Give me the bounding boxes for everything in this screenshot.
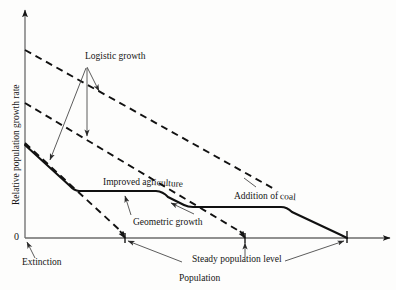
coal-leaders — [244, 178, 256, 187]
improved-agriculture-label: Improved agriculture — [103, 178, 183, 188]
x-axis-label: Population — [179, 274, 220, 284]
logistic-decline-2 — [25, 103, 244, 234]
steady-population-level-label: Steady population level — [192, 255, 282, 265]
addition-of-coal-text-a: Addition of — [234, 191, 280, 201]
logistic-growth-label: Logistic growth — [85, 52, 145, 62]
geometric-growth-label: Geometric growth — [133, 218, 202, 228]
logistic-leaders — [50, 67, 99, 160]
extinction-label: Extinction — [22, 258, 62, 268]
coal-leader — [244, 178, 256, 187]
y-axis-label: Relative population growth rate — [11, 84, 21, 205]
improved-agriculture-text-b: iculture — [154, 178, 184, 190]
dashed-arrow-tips — [120, 231, 245, 238]
figure-canvas — [0, 0, 396, 290]
improved-agriculture-text-a: Improved agr — [103, 177, 154, 187]
logistic-decline-1 — [25, 50, 276, 190]
extinction-leader — [27, 242, 35, 258]
steady-leader-left — [128, 241, 182, 262]
steady-state-ticks — [125, 231, 347, 243]
steady-leader-right — [285, 241, 344, 261]
addition-of-coal-text-b: coal — [280, 192, 296, 203]
addition-of-coal-label: Addition of coal — [234, 192, 296, 202]
axis-lines — [25, 10, 390, 238]
logistic-leader-to-curve — [50, 68, 86, 160]
origin-zero-label: 0 — [14, 231, 19, 242]
geometric-leader-up — [125, 196, 131, 215]
population-growth-figure: Relative population growth rate 0 Logist… — [0, 0, 396, 290]
